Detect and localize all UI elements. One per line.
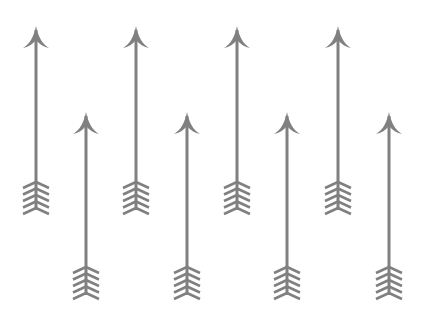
arrow-pattern: [0, 0, 429, 319]
arrow-icon: [376, 112, 402, 299]
arrow-icon: [73, 112, 99, 299]
arrow-icon: [123, 26, 149, 214]
fletching-chevron: [123, 208, 149, 214]
fletching-chevron: [376, 293, 402, 299]
fletching-chevron: [174, 293, 200, 299]
fletching-chevron: [325, 208, 351, 214]
fletching-chevron: [224, 208, 250, 214]
fletching-chevron: [23, 208, 49, 214]
arrow-icon: [325, 26, 351, 214]
fletching-chevron: [73, 293, 99, 299]
fletching-chevron: [274, 293, 300, 299]
arrow-icon: [274, 112, 300, 299]
arrow-icon: [224, 26, 250, 214]
arrow-icon: [174, 112, 200, 299]
arrow-icon: [23, 26, 49, 214]
